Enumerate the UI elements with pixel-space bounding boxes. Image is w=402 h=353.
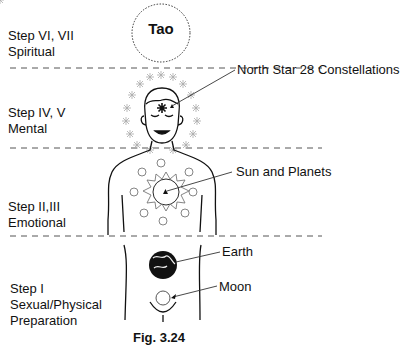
head-outline: [145, 88, 180, 143]
earth-icon: [149, 251, 177, 279]
step-spiritual: Step VI, VII Spiritual: [8, 28, 74, 60]
torso-outline: [108, 141, 216, 235]
step-emotional: Step II,III Emotional: [8, 199, 66, 231]
sun-planets-label: Sun and Planets: [236, 164, 331, 180]
tao-label: Tao: [131, 9, 191, 47]
step-mental: Step IV, V Mental: [8, 105, 65, 137]
earth-label: Earth: [222, 244, 253, 260]
third-eye-star-icon: [157, 103, 167, 113]
sun-triangle-icon: [163, 189, 168, 194]
sun-icon: [130, 159, 197, 225]
step-physical: Step I Sexual/Physical Preparation: [10, 281, 102, 329]
moon-label: Moon: [219, 279, 252, 295]
diagram: Tao Step VI, VII Spiritual Step IV, V Me…: [0, 0, 402, 353]
moon-icon: [156, 291, 170, 305]
figure-caption: Fig. 3.24: [133, 330, 185, 345]
north-star-label: North Star 28 Constellations: [237, 62, 400, 78]
